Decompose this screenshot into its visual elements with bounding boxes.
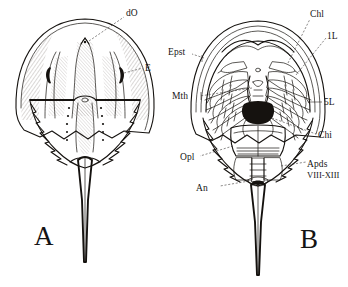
- chelicera-right-b: [269, 62, 295, 73]
- chelicera-right-tip-b: [295, 71, 298, 73]
- label-Opl: Opl: [180, 152, 195, 162]
- endostome-ridge-b: [253, 90, 263, 96]
- abdomen-shading-a: [77, 104, 93, 154]
- label-An: An: [196, 183, 208, 193]
- panel-a-dorsal-figure: dO E A: [16, 8, 154, 262]
- abdominal-segment-lines-b: [250, 164, 266, 176]
- mouth-opening-b: [253, 81, 263, 87]
- label-1L: 1L: [327, 31, 338, 41]
- label-Chl: Chl: [310, 9, 324, 19]
- plate-canvas: dO E A: [0, 0, 348, 287]
- chilaria-basal-mass-b: [242, 101, 274, 124]
- leg-right-1-b: [268, 71, 307, 98]
- label-Chi: Chi: [318, 130, 332, 140]
- panel-letter-b: B: [300, 224, 318, 254]
- abdominal-plate-left-b: [234, 158, 252, 180]
- leader-Apds: [281, 162, 306, 166]
- chelicera-left-tip-b: [218, 71, 221, 73]
- label-Mth: Mth: [172, 91, 188, 101]
- leader-Opl: [200, 146, 233, 156]
- label-dO: dO: [126, 8, 138, 18]
- label-Apds: Apds: [307, 159, 328, 169]
- movable-spine-row-right-a: [100, 107, 104, 141]
- figure-plate: dO E A: [0, 0, 348, 287]
- lateral-ridge-shading-left-a: [48, 56, 68, 116]
- panel-b-ventral-figure: Chl 1L Epst Mth 5L Chi Opl An Apds VIII-…: [168, 9, 340, 275]
- chelicera-left-b: [221, 62, 247, 73]
- panel-letter-a: A: [34, 221, 54, 251]
- chilaria-right-b: [270, 120, 273, 136]
- label-5L: 5L: [324, 97, 335, 107]
- median-plate-b: [256, 68, 261, 72]
- compound-eye-right-a: [119, 67, 124, 83]
- dorsal-ocellus-point-a: [84, 41, 86, 43]
- label-E: E: [145, 63, 151, 73]
- label-Epst: Epst: [168, 47, 186, 57]
- abdominal-plate-right-b: [264, 158, 282, 180]
- chilaria-left-b: [243, 120, 246, 136]
- lateral-ridge-shading-right-a: [102, 56, 122, 116]
- leg-left-1-b: [209, 71, 248, 98]
- label-Apds-range: VIII-XIII: [307, 170, 340, 180]
- leader-An: [220, 181, 249, 186]
- compound-eye-left-a: [46, 67, 51, 83]
